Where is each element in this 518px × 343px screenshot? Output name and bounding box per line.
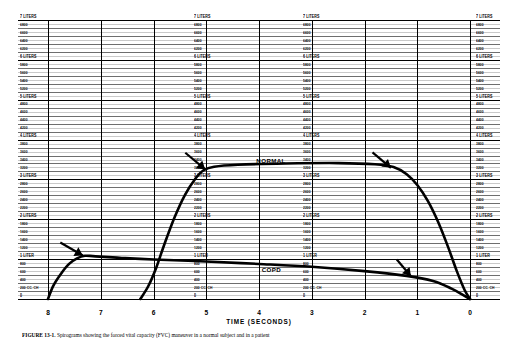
x-axis-tick-label: 6	[152, 309, 156, 316]
x-axis-tick-label: 2	[363, 309, 367, 316]
x-axis-tick-label: 8	[46, 309, 50, 316]
caption-figure-number: FIGURE 13-1.	[22, 332, 56, 338]
figure-caption: FIGURE 13-1. Spirograms showing the forc…	[22, 332, 496, 338]
x-axis-title: TIME (SECONDS)	[0, 318, 518, 325]
x-axis-tick-label: 3	[310, 309, 314, 316]
arrow-normal-plateau-start	[185, 153, 205, 170]
x-axis-tick-label: 5	[204, 309, 208, 316]
normal-curve-label: NORMAL	[256, 158, 285, 164]
arrow-copd-peak	[60, 243, 83, 256]
x-axis-tick-label: 1	[415, 309, 419, 316]
plot-area: 7 LITERS68006600640062006 LITERS58005600…	[18, 12, 500, 308]
copd-curve-label: COPD	[262, 267, 281, 273]
x-axis-tick-label: 7	[99, 309, 103, 316]
x-axis-tick-label: 0	[468, 309, 472, 316]
curve-copd	[48, 256, 470, 299]
x-axis-tick-label: 4	[257, 309, 261, 316]
spirometry-figure: 7 LITERS68006600640062006 LITERS58005600…	[0, 0, 518, 343]
caption-text: Spirograms showing the forced vital capa…	[56, 332, 270, 338]
